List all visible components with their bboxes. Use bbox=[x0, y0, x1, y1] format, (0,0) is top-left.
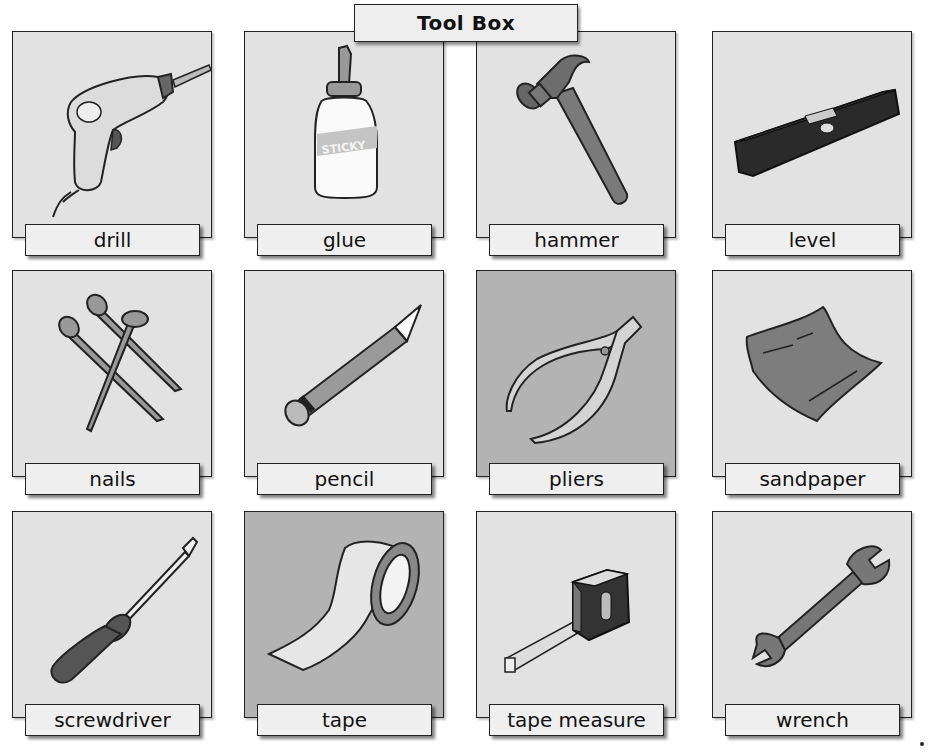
card-panel bbox=[476, 31, 676, 238]
card-panel bbox=[712, 31, 912, 238]
tool-label: pencil bbox=[257, 463, 432, 495]
wrench-icon bbox=[713, 512, 913, 702]
tool-card-glue: STICKY glue bbox=[244, 31, 446, 240]
tool-card-hammer: hammer bbox=[476, 31, 678, 240]
tool-card-tape: tape bbox=[244, 511, 446, 720]
tool-card-pencil: pencil bbox=[244, 270, 446, 479]
tool-card-nails: nails bbox=[12, 270, 214, 479]
tool-card-drill: drill bbox=[12, 31, 214, 240]
tool-label: hammer bbox=[489, 224, 664, 256]
tool-label: drill bbox=[25, 224, 200, 256]
drill-icon bbox=[13, 32, 213, 222]
page-title: Tool Box bbox=[354, 4, 578, 42]
tape-measure-icon bbox=[477, 512, 677, 702]
corner-mark bbox=[920, 742, 924, 746]
tool-card-sandpaper: sandpaper bbox=[712, 270, 914, 479]
tool-label: wrench bbox=[725, 704, 900, 736]
card-panel bbox=[12, 270, 212, 477]
pencil-icon bbox=[245, 271, 445, 461]
card-panel bbox=[244, 270, 444, 477]
hammer-icon bbox=[477, 32, 677, 222]
tape-roll-icon bbox=[245, 512, 445, 702]
glue-bottle-icon: STICKY bbox=[245, 32, 445, 222]
tool-label: screwdriver bbox=[25, 704, 200, 736]
card-panel bbox=[476, 511, 676, 718]
tool-label: level bbox=[725, 224, 900, 256]
pliers-icon bbox=[477, 271, 677, 461]
sandpaper-icon bbox=[713, 271, 913, 461]
screwdriver-icon bbox=[13, 512, 213, 702]
spirit-level-icon bbox=[713, 32, 913, 222]
card-panel bbox=[476, 270, 676, 477]
tool-card-wrench: wrench bbox=[712, 511, 914, 720]
card-panel: STICKY bbox=[244, 31, 444, 238]
card-panel bbox=[244, 511, 444, 718]
card-panel bbox=[712, 511, 912, 718]
tool-card-level: level bbox=[712, 31, 914, 240]
tool-card-pliers: pliers bbox=[476, 270, 678, 479]
tool-label: sandpaper bbox=[725, 463, 900, 495]
tool-label: tape bbox=[257, 704, 432, 736]
card-panel bbox=[12, 511, 212, 718]
tool-label: glue bbox=[257, 224, 432, 256]
nails-icon bbox=[13, 271, 213, 461]
tool-label: nails bbox=[25, 463, 200, 495]
tool-card-screwdriver: screwdriver bbox=[12, 511, 214, 720]
tool-label: tape measure bbox=[489, 704, 664, 736]
tool-card-tape-measure: tape measure bbox=[476, 511, 678, 720]
card-panel bbox=[712, 270, 912, 477]
tool-label: pliers bbox=[489, 463, 664, 495]
card-panel bbox=[12, 31, 212, 238]
